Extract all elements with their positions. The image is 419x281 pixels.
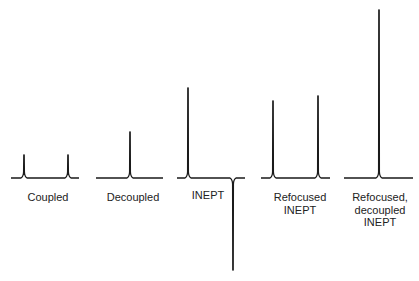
- nmr-spectra-diagram: [0, 0, 419, 281]
- spectrum-trace: [96, 132, 163, 178]
- label-line: decoupled: [352, 204, 408, 217]
- label-line: INEPT: [192, 189, 224, 202]
- spectrum-label-inept: INEPT: [192, 189, 224, 202]
- spectrum-refocused-inept: [261, 96, 330, 178]
- label-line: INEPT: [274, 204, 327, 217]
- spectrum-trace: [177, 88, 245, 270]
- spectrum-label-refocused-inept: RefocusedINEPT: [274, 191, 327, 216]
- label-line: Refocused: [274, 191, 327, 204]
- label-line: INEPT: [352, 216, 408, 229]
- spectrum-trace: [11, 155, 79, 178]
- label-line: Decoupled: [107, 191, 160, 204]
- spectrum-trace: [261, 96, 330, 178]
- spectrum-label-decoupled: Decoupled: [107, 191, 160, 204]
- spectrum-decoupled: [96, 132, 163, 178]
- spectrum-inept: [177, 88, 245, 270]
- spectrum-refocused-decoupled-inept: [344, 10, 413, 178]
- label-line: Coupled: [28, 191, 69, 204]
- spectrum-coupled: [11, 155, 79, 178]
- spectrum-label-refocused-decoupled-inept: Refocused,decoupledINEPT: [352, 191, 408, 229]
- spectrum-label-coupled: Coupled: [28, 191, 69, 204]
- label-line: Refocused,: [352, 191, 408, 204]
- spectrum-trace: [344, 10, 413, 178]
